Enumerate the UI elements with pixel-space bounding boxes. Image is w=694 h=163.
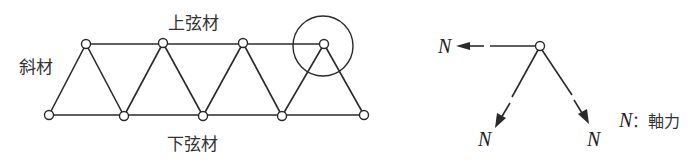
- legend: N：軸力: [618, 109, 680, 131]
- truss-diagram: 上弦材 下弦材 斜材 N N N N：軸力: [0, 0, 694, 163]
- arrow-down-left-icon: [495, 113, 506, 128]
- member-down-left: [512, 50, 538, 97]
- diagonal-member: [124, 43, 163, 116]
- diagonal-member: [324, 44, 364, 115]
- diagonal-member: [86, 44, 124, 116]
- arrow-shaft-down-left: [501, 103, 510, 118]
- bottom-chord-label: 下弦材: [167, 134, 218, 154]
- force-label-down-right: N: [586, 128, 602, 150]
- legend-separator: ：: [632, 112, 648, 131]
- force-label-left: N: [437, 35, 453, 57]
- free-body-node-icon: [536, 42, 545, 51]
- diagonal-member: [163, 43, 203, 116]
- pin-joint-icon: [320, 40, 329, 49]
- arrow-left-icon: [456, 42, 470, 50]
- pin-joint-icon: [199, 112, 208, 121]
- free-body-diagram: [456, 42, 589, 128]
- legend-meaning: 軸力: [648, 112, 680, 131]
- pin-joint-icon: [45, 111, 54, 120]
- arrow-down-right-icon: [578, 109, 589, 124]
- pin-joint-icon: [278, 112, 287, 121]
- top-chord-label: 上弦材: [168, 13, 219, 33]
- arrow-shaft-down-right: [574, 100, 582, 113]
- diagonal-member: [203, 43, 243, 116]
- diagonal-member: [49, 44, 86, 115]
- pin-joint-icon: [82, 40, 91, 49]
- pin-joint-icon: [360, 111, 369, 120]
- diagonal-member: [282, 44, 324, 116]
- pin-joint-icon: [120, 112, 129, 121]
- diagonal-member: [243, 43, 282, 116]
- force-label-down-left: N: [477, 128, 493, 150]
- pin-joint-icon: [239, 39, 248, 48]
- pin-joint-icon: [159, 39, 168, 48]
- diagonal-label: 斜材: [19, 57, 53, 77]
- member-down-right: [542, 50, 572, 95]
